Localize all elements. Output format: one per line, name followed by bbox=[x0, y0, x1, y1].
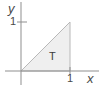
x-axis-label: x bbox=[87, 72, 94, 85]
y-axis-label: y bbox=[8, 2, 15, 15]
triangle-region-label: T bbox=[49, 51, 56, 62]
triangle-shape bbox=[21, 22, 70, 71]
x-axis-tick-label-1: 1 bbox=[67, 73, 73, 84]
y-axis-tick-label-1: 1 bbox=[10, 16, 16, 27]
triangle-region-figure: y x 1 1 T bbox=[0, 0, 104, 91]
